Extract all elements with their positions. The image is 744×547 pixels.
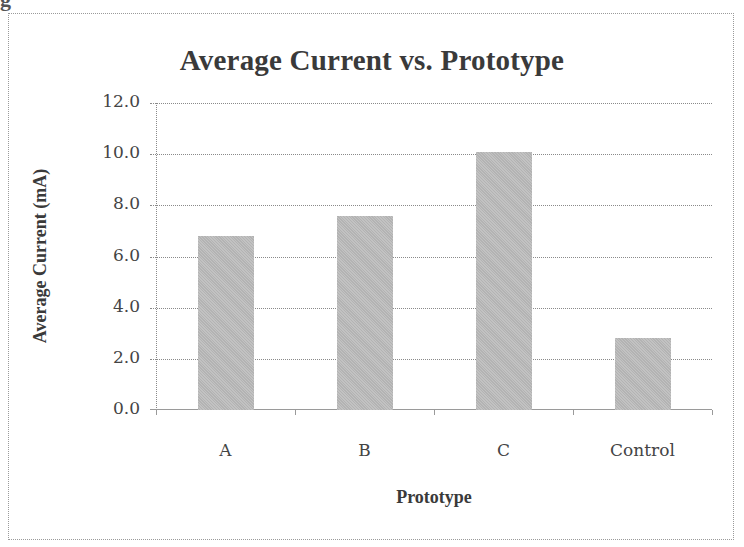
y-tick-label: 0.0 bbox=[60, 398, 140, 418]
bar-a bbox=[198, 236, 254, 410]
y-tick-label: 10.0 bbox=[60, 142, 140, 162]
y-axis-title: Average Current (mA) bbox=[30, 169, 51, 343]
bar-c bbox=[476, 152, 532, 410]
y-tick-label: 4.0 bbox=[60, 296, 140, 316]
x-tick-label: C bbox=[434, 440, 574, 460]
x-tick-mark bbox=[434, 410, 435, 415]
cut-off-caption-fragment: g bbox=[0, 0, 11, 12]
chart-title: Average Current vs. Prototype bbox=[0, 44, 744, 77]
gridline bbox=[150, 103, 712, 104]
y-tick-label: 8.0 bbox=[60, 193, 140, 213]
bar-b bbox=[337, 216, 393, 410]
x-tick-mark bbox=[295, 410, 296, 415]
gridline bbox=[150, 205, 712, 206]
bar-control bbox=[615, 338, 671, 410]
x-tick-label: B bbox=[295, 440, 435, 460]
x-tick-mark bbox=[573, 410, 574, 415]
gridline bbox=[150, 154, 712, 155]
x-tick-label: Control bbox=[573, 440, 713, 460]
y-tick-label: 12.0 bbox=[60, 91, 140, 111]
y-tick-label: 6.0 bbox=[60, 245, 140, 265]
y-tick-label: 2.0 bbox=[60, 347, 140, 367]
x-tick-label: A bbox=[156, 440, 296, 460]
x-axis-title: Prototype bbox=[156, 487, 712, 508]
x-tick-mark bbox=[712, 410, 713, 415]
x-tick-mark bbox=[156, 410, 157, 415]
plot-area bbox=[156, 103, 712, 410]
